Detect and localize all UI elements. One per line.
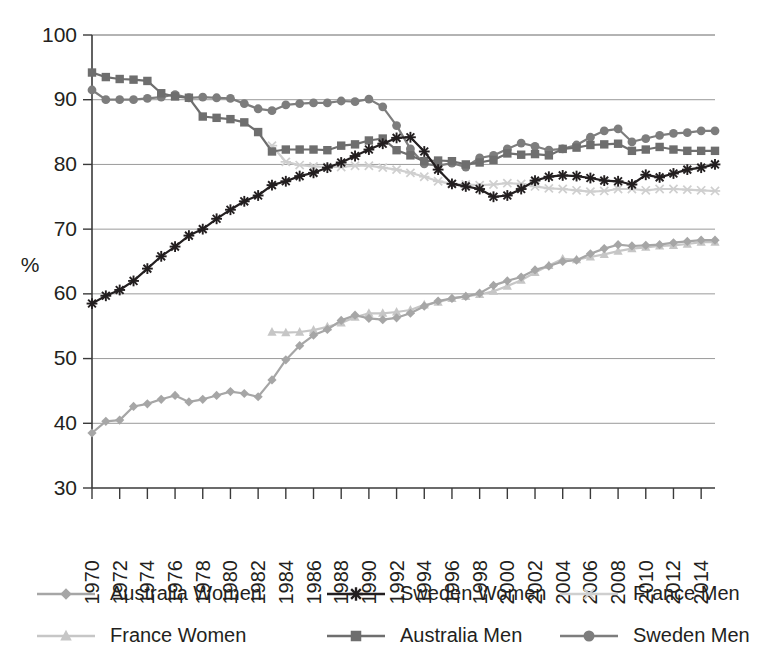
data-point-marker <box>184 397 193 406</box>
data-point-marker <box>462 160 470 168</box>
data-point-marker <box>696 186 706 194</box>
data-point-marker <box>197 224 208 235</box>
data-point-marker <box>460 181 471 192</box>
data-point-marker <box>129 75 137 83</box>
data-point-marker <box>322 162 333 173</box>
data-point-marker <box>294 161 304 169</box>
data-point-marker <box>349 587 363 601</box>
data-point-marker <box>433 164 444 175</box>
data-point-marker <box>115 95 124 104</box>
data-point-marker <box>87 298 98 309</box>
y-tick-label: 70 <box>54 217 77 240</box>
y-tick-label: 60 <box>54 281 77 304</box>
data-point-marker <box>198 93 207 102</box>
x-tick-label: 2008 <box>607 560 629 605</box>
data-point-marker <box>710 187 720 195</box>
data-point-marker <box>488 180 498 188</box>
data-point-marker <box>586 133 595 142</box>
data-point-marker <box>697 126 706 135</box>
data-point-marker <box>254 128 262 136</box>
data-point-marker <box>710 159 721 170</box>
data-point-marker <box>226 115 234 123</box>
data-point-marker <box>212 114 220 122</box>
data-point-marker <box>240 389 249 398</box>
data-point-marker <box>392 121 401 130</box>
data-point-marker <box>351 140 359 148</box>
data-point-marker <box>254 104 263 113</box>
series-line <box>92 137 715 303</box>
legend-label: Australia Women <box>110 582 262 604</box>
data-point-marker <box>433 177 443 185</box>
data-point-marker <box>641 186 651 194</box>
data-point-marker <box>392 146 400 154</box>
data-point-marker <box>572 143 580 151</box>
x-tick-label: 1986 <box>303 560 325 605</box>
gridlines <box>92 35 715 423</box>
data-point-marker <box>531 150 539 158</box>
data-point-marker <box>475 158 483 166</box>
data-point-marker <box>281 100 290 109</box>
data-point-marker <box>489 156 497 164</box>
data-point-marker <box>474 184 485 195</box>
data-point-marker <box>683 128 692 137</box>
data-point-marker <box>502 179 512 187</box>
data-point-marker <box>157 395 166 404</box>
y-axis-title: % <box>21 253 40 276</box>
data-point-marker <box>544 184 554 192</box>
series-line <box>92 240 715 433</box>
data-point-marker <box>156 251 167 262</box>
data-series <box>87 68 721 437</box>
data-point-marker <box>391 132 402 143</box>
data-point-marker <box>268 106 277 115</box>
data-point-marker <box>308 167 319 178</box>
legend-item-france-women[interactable]: France Women <box>37 624 246 646</box>
data-point-marker <box>530 175 541 186</box>
data-point-marker <box>447 178 458 189</box>
data-point-marker <box>682 164 693 175</box>
data-point-marker <box>434 156 442 164</box>
series-australia-men <box>88 68 719 168</box>
data-point-marker <box>350 162 360 170</box>
data-point-marker <box>517 151 525 159</box>
data-point-marker <box>100 290 111 301</box>
data-point-marker <box>280 176 291 187</box>
data-point-marker <box>613 176 624 187</box>
y-tick-label: 80 <box>54 152 77 175</box>
data-point-marker <box>115 75 123 83</box>
y-axis-ticks: 30405060708090100 <box>42 23 92 499</box>
data-point-marker <box>655 131 664 140</box>
data-point-marker <box>628 147 636 155</box>
data-point-marker <box>600 244 609 253</box>
data-point-marker <box>391 166 401 174</box>
data-point-marker <box>212 391 221 400</box>
data-point-marker <box>516 184 527 195</box>
data-point-marker <box>351 97 360 106</box>
legend-item-australia-women[interactable]: Australia Women <box>37 582 262 604</box>
data-point-marker <box>170 241 181 252</box>
data-point-marker <box>199 112 207 120</box>
data-point-marker <box>240 118 248 126</box>
data-point-marker <box>142 263 153 274</box>
data-point-marker <box>503 149 511 157</box>
data-point-marker <box>337 141 345 149</box>
data-point-marker <box>364 162 374 170</box>
data-point-marker <box>114 285 125 296</box>
data-point-marker <box>682 186 692 194</box>
data-point-marker <box>557 170 568 181</box>
data-point-marker <box>323 146 331 154</box>
data-point-marker <box>531 142 540 151</box>
data-point-marker <box>571 171 582 182</box>
legend-label: France Women <box>110 624 246 646</box>
data-point-marker <box>559 145 567 153</box>
data-point-marker <box>211 213 222 224</box>
data-point-marker <box>489 281 498 290</box>
legend-item-australia-men[interactable]: Australia Men <box>327 624 522 646</box>
data-point-marker <box>571 186 581 194</box>
legend-item-sweden-men[interactable]: Sweden Men <box>560 624 750 646</box>
x-tick-label: 1984 <box>275 560 297 605</box>
data-point-marker <box>641 134 650 143</box>
x-tick-label: 1970 <box>81 560 103 605</box>
data-point-marker <box>420 302 429 311</box>
x-tick-label: 2006 <box>579 560 601 605</box>
data-point-marker <box>170 391 179 400</box>
